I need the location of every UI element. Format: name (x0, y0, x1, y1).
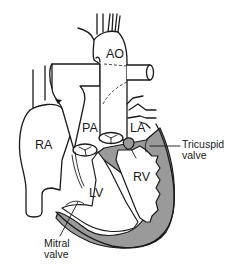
label-ao: AO (106, 47, 124, 61)
label-mitral-line2: valve (44, 248, 69, 260)
heart-diagram: AO PA LA RA LV RV Tricuspid valve Mitral… (0, 0, 234, 268)
label-ra: RA (35, 138, 53, 152)
label-pa: PA (82, 121, 98, 135)
label-lv: LV (89, 186, 104, 200)
label-tricuspid-line2: valve (182, 149, 207, 161)
label-rv: RV (133, 170, 151, 184)
label-la: LA (130, 121, 146, 135)
